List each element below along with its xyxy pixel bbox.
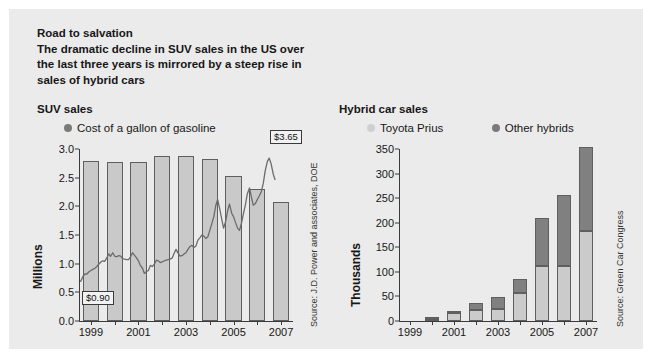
legend-item-toyota-prius: Toyota Prius <box>367 122 443 134</box>
toyota-prius-segment <box>535 266 549 321</box>
headline-subtitle-line-3: sales of hybrid cars <box>37 73 457 89</box>
y-tick-label: 150 <box>376 241 394 253</box>
y-tick-label: 0.0 <box>59 315 74 327</box>
price-callout: $0.90 <box>82 291 114 305</box>
headline-block: Road to salvation The dramatic decline i… <box>37 26 457 88</box>
y-tick-label: 1.0 <box>59 258 74 270</box>
figure-panel: Road to salvation The dramatic decline i… <box>9 9 643 349</box>
toyota-prius-segment <box>513 293 527 321</box>
legend-label-toyota-prius: Toyota Prius <box>380 122 443 134</box>
other-hybrids-segment <box>469 303 483 310</box>
x-tick-label: 2005 <box>530 326 554 338</box>
y-tick-label: 2.5 <box>59 172 74 184</box>
y-tick-label: 0 <box>388 315 394 327</box>
x-tick-label: 2007 <box>574 326 598 338</box>
legend-dot-icon <box>64 124 72 132</box>
y-tick-label: 200 <box>376 217 394 229</box>
hybrid-sales-plot-area: Thousands 050100150200250300350199920012… <box>399 149 597 321</box>
right-chart-legend: Toyota Prius Other hybrids <box>367 121 574 134</box>
price-callout: $3.65 <box>270 130 302 144</box>
y-tick-label: 300 <box>376 168 394 180</box>
x-tick-label: 2005 <box>221 326 245 338</box>
x-tick-label: 2007 <box>269 326 293 338</box>
y-tick-label: 50 <box>382 290 394 302</box>
other-hybrids-segment <box>447 311 461 313</box>
suv-sales-plot-area: Millions 0.00.51.01.52.02.53.01999200120… <box>79 149 293 321</box>
headline-title: Road to salvation <box>37 26 457 42</box>
gasoline-price-polyline <box>79 158 275 282</box>
x-tick-label: 1999 <box>398 326 422 338</box>
right-chart-title: Hybrid car sales <box>339 103 428 115</box>
right-y-axis-line <box>399 149 400 321</box>
toyota-prius-segment <box>579 231 593 321</box>
other-hybrids-segment <box>535 218 549 267</box>
legend-label-other-hybrids: Other hybrids <box>505 122 574 134</box>
right-x-axis-line <box>399 321 597 322</box>
x-tick-label: 2001 <box>126 326 150 338</box>
toyota-prius-segment <box>557 266 571 321</box>
other-hybrids-segment <box>513 279 527 294</box>
legend-item-gasoline: Cost of a gallon of gasoline <box>64 122 216 134</box>
y-tick-label: 0.5 <box>59 286 74 298</box>
right-y-axis-label: Thousands <box>349 243 363 307</box>
left-chart-title: SUV sales <box>37 103 93 115</box>
y-tick-label: 100 <box>376 266 394 278</box>
y-tick-label: 1.5 <box>59 229 74 241</box>
x-tick-label: 2003 <box>174 326 198 338</box>
x-tick-label: 2001 <box>442 326 466 338</box>
x-tick-label: 1999 <box>79 326 103 338</box>
y-tick-label: 250 <box>376 192 394 204</box>
legend-label-gasoline: Cost of a gallon of gasoline <box>77 122 216 134</box>
other-hybrids-segment <box>579 147 593 231</box>
legend-item-other-hybrids: Other hybrids <box>492 122 574 134</box>
x-tick-label: 2003 <box>486 326 510 338</box>
legend-dot-icon <box>492 124 500 132</box>
left-x-axis-line <box>79 321 293 322</box>
left-y-axis-line <box>79 149 80 321</box>
right-chart-source: Source: Green Car Congress <box>615 210 625 327</box>
y-tick-label: 350 <box>376 143 394 155</box>
left-chart-source: Source: J.D. Power and associates, DOE <box>309 162 319 327</box>
legend-dot-icon <box>367 124 375 132</box>
headline-subtitle-line-2: the last three years is mirrored by a st… <box>37 57 457 73</box>
other-hybrids-segment <box>557 195 571 266</box>
left-chart-legend: Cost of a gallon of gasoline <box>64 121 216 134</box>
other-hybrids-segment <box>491 297 505 309</box>
left-y-axis-label: Millions <box>31 244 45 289</box>
toyota-prius-segment <box>491 309 505 321</box>
toyota-prius-segment <box>447 313 461 321</box>
other-hybrids-segment <box>425 317 439 319</box>
y-tick-label: 3.0 <box>59 143 74 155</box>
toyota-prius-segment <box>469 310 483 321</box>
y-tick-label: 2.0 <box>59 200 74 212</box>
headline-subtitle-line-1: The dramatic decline in SUV sales in the… <box>37 42 457 58</box>
